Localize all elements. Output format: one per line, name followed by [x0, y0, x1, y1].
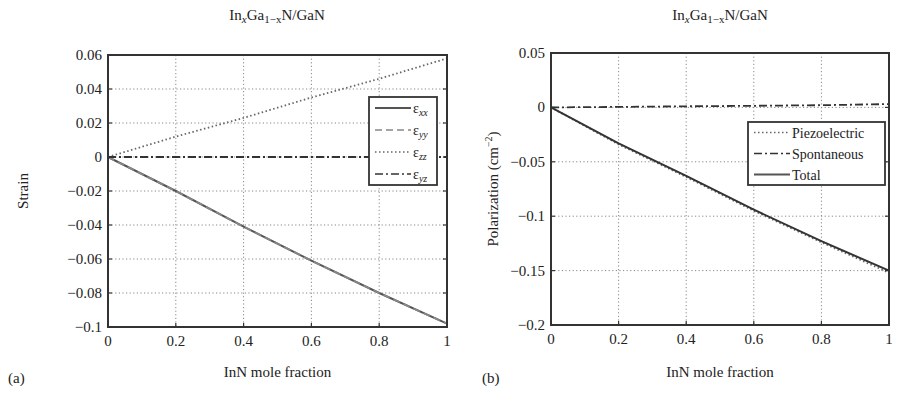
y-tick-label: −0.05 — [510, 154, 545, 170]
x-tick-label: 1 — [885, 331, 893, 347]
y-tick-label: −0.06 — [67, 251, 102, 267]
y-tick-label: −0.02 — [67, 183, 102, 199]
figure: 00.20.40.60.810.060.040.020−0.02−0.04−0.… — [0, 0, 922, 403]
chart-panel-b: 00.20.40.60.810.050−0.05−0.1−0.15−0.2Inx… — [482, 7, 893, 387]
x-tick-label: 0.4 — [677, 331, 696, 347]
x-tick-label: 1 — [443, 333, 451, 349]
x-tick-label: 0 — [547, 331, 555, 347]
title-sub-1-x: 1−x — [707, 13, 725, 25]
title-ga: Ga — [690, 7, 708, 23]
y-tick-label: −0.2 — [518, 317, 545, 333]
title-in: In — [229, 7, 242, 23]
legend-subscript: zz — [418, 151, 427, 162]
legend-subscript: yz — [418, 173, 427, 184]
y-tick-label: 0.05 — [519, 45, 545, 61]
legend-label-1: Spontaneous — [792, 147, 864, 162]
y-tick-label: −0.1 — [518, 208, 545, 224]
y-tick-label: 0 — [538, 99, 546, 115]
x-tick-label: 0.6 — [744, 331, 763, 347]
y-tick-label: 0.06 — [76, 47, 103, 63]
x-tick-label: 0.2 — [609, 331, 628, 347]
x-tick-label: 0.8 — [370, 333, 389, 349]
y-label-main: Polarization (cm — [485, 147, 502, 247]
chart-title: InxGa1−xN/GaN — [672, 7, 768, 25]
grid — [108, 55, 447, 327]
legend: εxxεyyεzzεyz — [369, 97, 437, 185]
y-tick-label: −0.15 — [510, 263, 545, 279]
x-tick-label: 0.2 — [166, 333, 185, 349]
title-ga: Ga — [247, 7, 265, 23]
panel-label: (a) — [8, 370, 25, 387]
y-tick-label: 0 — [95, 149, 103, 165]
x-tick-label: 0.4 — [234, 333, 253, 349]
y-tick-label: −0.1 — [75, 319, 102, 335]
title-n-gan: N/GaN — [281, 7, 324, 23]
y-tick-label: 0.02 — [76, 115, 102, 131]
x-axis-label: InN mole fraction — [224, 364, 332, 380]
legend-subscript: xx — [418, 107, 428, 118]
legend-subscript: yy — [418, 129, 428, 140]
y-label-sup: −2 — [483, 136, 494, 147]
panel-label: (b) — [482, 370, 500, 387]
title-in: In — [672, 7, 685, 23]
x-tick-label: 0.6 — [302, 333, 321, 349]
x-axis-label: InN mole fraction — [666, 364, 774, 380]
legend: PiezoelectricSpontaneousTotal — [748, 122, 885, 185]
y-tick-label: −0.08 — [67, 285, 102, 301]
y-axis-label: Polarization (cm−2) — [483, 131, 502, 246]
chart-panel-a: 00.20.40.60.810.060.040.020−0.02−0.04−0.… — [8, 7, 451, 387]
series-line-1 — [551, 104, 889, 107]
legend-label-2: Total — [792, 168, 821, 183]
x-tick-label: 0.8 — [812, 331, 831, 347]
y-label-end: ) — [485, 131, 502, 136]
chart-title: InxGa1−xN/GaN — [229, 7, 325, 25]
title-n-gan: N/GaN — [724, 7, 767, 23]
axes-box — [551, 53, 889, 325]
legend-label-0: Piezoelectric — [792, 126, 864, 141]
grid — [551, 53, 889, 325]
x-tick-label: 0 — [104, 333, 112, 349]
y-axis-label: Strain — [15, 173, 31, 209]
title-sub-1-x: 1−x — [264, 13, 282, 25]
y-tick-label: −0.04 — [67, 217, 102, 233]
y-tick-label: 0.04 — [76, 81, 103, 97]
